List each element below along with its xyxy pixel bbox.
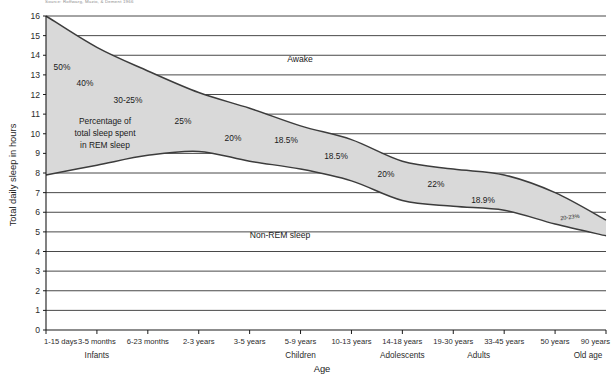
rem-caption-line: total sleep spent xyxy=(75,128,137,138)
rem-percent-label: 50% xyxy=(54,62,71,72)
x-tick-label: 3-5 months xyxy=(78,337,116,346)
x-tick-label: 19-30 years xyxy=(433,337,473,346)
x-tick-label: 14-18 years xyxy=(382,337,422,346)
y-tick-label: 13 xyxy=(30,70,40,80)
rem-percent-label: 18.5% xyxy=(274,135,298,145)
rem-caption-line: Percentage of xyxy=(79,116,132,126)
x-group-label: Children xyxy=(285,351,316,360)
sleep-across-lifespan-chart: Source: Roffwarg, Muzio, & Dement 1966 0… xyxy=(0,0,615,383)
x-group-label: Old age xyxy=(574,351,603,360)
x-tick-label: 10-13 years xyxy=(331,337,371,346)
rem-percent-label: 18.5% xyxy=(324,151,348,161)
y-tick-label: 2 xyxy=(35,286,40,296)
rem-percent-label: 40% xyxy=(77,78,94,88)
y-tick-label: 4 xyxy=(35,247,40,257)
chart-svg: 012345678910111213141516 1-15 days3-5 mo… xyxy=(0,0,615,383)
x-tick-label: 2-3 years xyxy=(183,337,215,346)
y-tick-label: 0 xyxy=(35,325,40,335)
y-tick-label: 7 xyxy=(35,188,40,198)
x-group-label: Adults xyxy=(467,351,490,360)
x-tick-label: 50 years xyxy=(541,337,570,346)
y-tick-label: 8 xyxy=(35,168,40,178)
rem-percent-label: 25% xyxy=(175,116,192,126)
y-tick-label: 3 xyxy=(35,266,40,276)
rem-percent-label: 20% xyxy=(225,133,242,143)
y-tick-label: 10 xyxy=(30,129,40,139)
y-tick-label: 14 xyxy=(30,50,40,60)
x-tick-label: 5-9 years xyxy=(285,337,317,346)
y-tick-label: 11 xyxy=(31,109,40,119)
y-tick-label: 12 xyxy=(30,90,40,100)
rem-percent-label: 30-25% xyxy=(114,95,143,105)
x-group-label: Infants xyxy=(85,351,110,360)
y-tick-label: 9 xyxy=(35,148,40,158)
x-tick-labels: 1-15 days3-5 months6-23 months2-3 years3… xyxy=(44,337,610,346)
y-tick-label: 6 xyxy=(35,207,40,217)
y-tick-label: 1 xyxy=(35,305,40,315)
x-tick-label: 3-5 years xyxy=(234,337,266,346)
y-tick-label: 5 xyxy=(35,227,40,237)
x-tick-label: 90 years xyxy=(581,337,610,346)
x-tick-label: 6-23 months xyxy=(127,337,169,346)
y-tick-label: 15 xyxy=(30,31,40,41)
source-note: Source: Roffwarg, Muzio, & Dement 1966 xyxy=(45,0,134,4)
rem-percent-label: 22% xyxy=(428,179,445,189)
y-axis-title: Total daily sleep in hours xyxy=(7,123,18,226)
x-tick-label: 1-15 days xyxy=(44,337,78,346)
rem-caption-line: in REM sleep xyxy=(80,140,130,150)
x-tick-label: 33-45 years xyxy=(484,337,524,346)
x-group-label: Adolescents xyxy=(380,351,425,360)
x-group-labels: InfantsChildrenAdolescentsAdultsOld age xyxy=(85,351,603,360)
y-tick-labels: 012345678910111213141516 xyxy=(30,11,40,335)
y-tick-label: 16 xyxy=(30,11,40,21)
non-rem-region-label: Non-REM sleep xyxy=(250,230,311,240)
rem-percent-label: 18.9% xyxy=(471,195,495,205)
awake-region-label: Awake xyxy=(287,54,313,64)
rem-caption: Percentage oftotal sleep spentin REM sle… xyxy=(75,116,137,150)
x-axis-title: Age xyxy=(314,363,331,374)
rem-percent-label: 20% xyxy=(378,169,395,179)
